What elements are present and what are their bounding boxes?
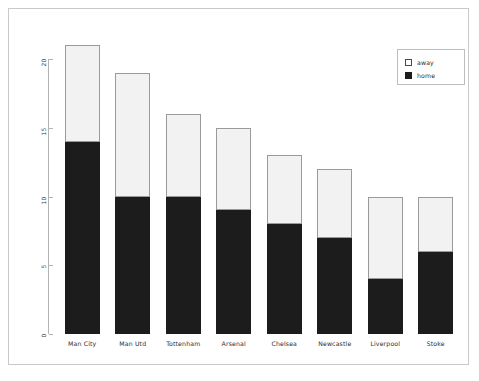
y-tick-mark	[49, 265, 53, 266]
bar-man-utd[interactable]	[115, 73, 150, 334]
x-tick-label: Arsenal	[209, 340, 260, 347]
bar-liverpool[interactable]	[368, 197, 403, 335]
bar-segment-away[interactable]	[115, 73, 150, 197]
x-tick-label: Man Utd	[108, 340, 159, 347]
x-tick-label: Chelsea	[259, 340, 310, 347]
y-tick-mark	[49, 128, 53, 129]
bar-segment-away[interactable]	[166, 114, 201, 197]
bar-segment-away[interactable]	[368, 197, 403, 280]
y-tick-label: 0	[40, 334, 47, 368]
bar-segment-away[interactable]	[65, 45, 100, 141]
figure-frame: 05101520 Man CityMan UtdTottenhamArsenal…	[8, 8, 469, 365]
bar-segment-home[interactable]	[216, 210, 251, 334]
bar-segment-away[interactable]	[418, 197, 453, 252]
bar-man-city[interactable]	[65, 45, 100, 334]
bar-segment-home[interactable]	[65, 142, 100, 335]
chart-legend: away home	[397, 49, 465, 85]
bar-segment-home[interactable]	[317, 238, 352, 334]
bar-chelsea[interactable]	[267, 155, 302, 334]
y-tick-label: 5	[40, 265, 47, 299]
x-tick-label: Newcastle	[310, 340, 361, 347]
y-tick-mark	[49, 59, 53, 60]
x-tick-label: Tottenham	[158, 340, 209, 347]
legend-label-home: home	[417, 72, 435, 79]
y-tick-label: 10	[40, 196, 47, 230]
bar-segment-away[interactable]	[317, 169, 352, 238]
legend-swatch-home-icon	[405, 72, 412, 79]
bar-segment-home[interactable]	[166, 197, 201, 335]
bar-segment-away[interactable]	[267, 155, 302, 224]
y-tick-label: 15	[40, 127, 47, 161]
y-tick-mark	[49, 334, 53, 335]
y-tick-mark	[49, 197, 53, 198]
bar-segment-home[interactable]	[115, 197, 150, 335]
legend-entry-away: away	[405, 56, 434, 68]
bar-segment-home[interactable]	[267, 224, 302, 334]
bar-newcastle[interactable]	[317, 169, 352, 334]
x-tick-label: Liverpool	[360, 340, 411, 347]
bar-segment-away[interactable]	[216, 128, 251, 211]
x-tick-label: Stoke	[411, 340, 462, 347]
legend-label-away: away	[417, 59, 434, 66]
bar-arsenal[interactable]	[216, 128, 251, 334]
bar-segment-home[interactable]	[418, 252, 453, 335]
bar-segment-home[interactable]	[368, 279, 403, 334]
x-tick-label: Man City	[57, 340, 108, 347]
legend-swatch-away-icon	[405, 59, 412, 66]
bar-stoke[interactable]	[418, 197, 453, 335]
legend-entry-home: home	[405, 69, 435, 81]
y-tick-label: 20	[40, 59, 47, 93]
chart-page: 05101520 Man CityMan UtdTottenhamArsenal…	[0, 0, 479, 381]
bar-tottenham[interactable]	[166, 114, 201, 334]
